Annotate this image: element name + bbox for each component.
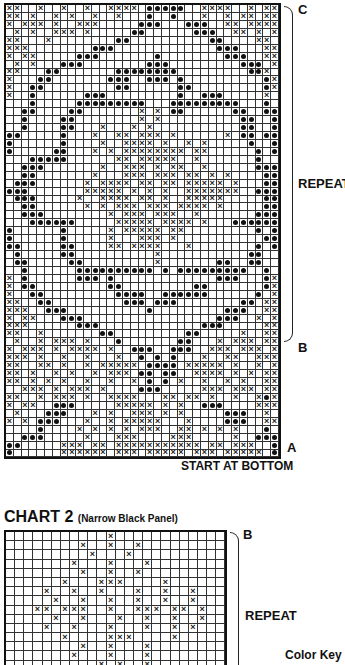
empty-cell [123, 259, 131, 267]
dot-stitch-cell [61, 251, 69, 259]
empty-cell [92, 354, 100, 362]
cross-stitch-cell [53, 346, 61, 354]
empty-cell [170, 61, 178, 69]
empty-cell [256, 283, 264, 291]
cross-stitch-cell [131, 227, 139, 235]
cross-stitch-cell [107, 211, 115, 219]
cross-stitch-cell [61, 606, 70, 615]
empty-cell [224, 323, 232, 331]
start-at-bottom-note: START AT BOTTOM [181, 459, 293, 473]
empty-cell [24, 550, 33, 559]
empty-cell [180, 587, 189, 596]
cross-stitch-cell [14, 410, 22, 418]
empty-cell [125, 569, 134, 578]
empty-cell [263, 148, 271, 156]
empty-cell [216, 550, 225, 559]
dot-stitch-cell [123, 267, 131, 275]
empty-cell [256, 140, 264, 148]
cross-stitch-cell [263, 21, 271, 29]
empty-cell [193, 275, 201, 283]
empty-cell [162, 124, 170, 132]
cross-stitch-cell [123, 180, 131, 188]
empty-cell [180, 633, 189, 642]
dot-stitch-cell [115, 291, 123, 299]
cross-stitch-cell [92, 370, 100, 378]
empty-cell [45, 92, 53, 100]
empty-cell [170, 243, 178, 251]
empty-cell [45, 434, 53, 442]
empty-cell [248, 402, 256, 410]
empty-cell [185, 61, 193, 69]
dot-stitch-cell [154, 61, 162, 69]
dot-stitch-cell [248, 259, 256, 267]
empty-cell [248, 172, 256, 180]
empty-cell [178, 45, 186, 53]
empty-cell [45, 243, 53, 251]
empty-cell [76, 132, 84, 140]
empty-cell [107, 307, 115, 315]
empty-cell [209, 69, 217, 77]
empty-cell [162, 346, 170, 354]
empty-cell [84, 251, 92, 259]
empty-cell [76, 164, 84, 172]
empty-cell [61, 203, 69, 211]
empty-cell [170, 84, 178, 92]
dot-stitch-cell [256, 61, 264, 69]
cross-stitch-cell [115, 219, 123, 227]
empty-cell [193, 45, 201, 53]
dot-stitch-cell [256, 251, 264, 259]
empty-cell [45, 21, 53, 29]
empty-cell [37, 180, 45, 188]
empty-cell [256, 84, 264, 92]
dot-stitch-cell [53, 148, 61, 156]
cross-stitch-cell [6, 21, 14, 29]
empty-cell [92, 84, 100, 92]
empty-cell [162, 235, 170, 243]
empty-cell [14, 227, 22, 235]
empty-cell [217, 69, 225, 77]
empty-cell [131, 307, 139, 315]
empty-cell [45, 132, 53, 140]
empty-cell [125, 596, 134, 605]
cross-stitch-cell [107, 346, 115, 354]
empty-cell [131, 61, 139, 69]
cross-stitch-cell [154, 211, 162, 219]
dot-stitch-cell [271, 164, 279, 172]
cross-stitch-cell [76, 196, 84, 204]
dot-stitch-cell [217, 37, 225, 45]
empty-cell [201, 69, 209, 77]
cross-stitch-cell [131, 450, 139, 458]
empty-cell [61, 76, 69, 84]
chart2-subtitle: (Narrow Black Panel) [78, 513, 178, 524]
cross-stitch-cell [61, 5, 69, 13]
empty-cell [123, 116, 131, 124]
empty-cell [24, 560, 33, 569]
empty-cell [224, 219, 232, 227]
empty-cell [232, 227, 240, 235]
color-key-label: Color Key [285, 648, 342, 662]
empty-cell [131, 84, 139, 92]
empty-cell [217, 410, 225, 418]
empty-cell [193, 116, 201, 124]
cross-stitch-cell [107, 148, 115, 156]
empty-cell [45, 338, 53, 346]
empty-cell [256, 108, 264, 116]
empty-cell [92, 227, 100, 235]
cross-stitch-cell [201, 386, 209, 394]
dot-stitch-cell [217, 402, 225, 410]
empty-cell [76, 172, 84, 180]
cross-stitch-cell [198, 615, 207, 624]
dot-stitch-cell [22, 116, 30, 124]
empty-cell [209, 53, 217, 61]
empty-cell [170, 307, 178, 315]
empty-cell [209, 426, 217, 434]
empty-cell [107, 315, 115, 323]
empty-cell [70, 661, 79, 665]
empty-cell [61, 267, 69, 275]
dot-stitch-cell [6, 132, 14, 140]
empty-cell [100, 346, 108, 354]
empty-cell [79, 624, 88, 633]
dot-stitch-cell [271, 450, 279, 458]
empty-cell [100, 211, 108, 219]
dot-stitch-cell [6, 243, 14, 251]
